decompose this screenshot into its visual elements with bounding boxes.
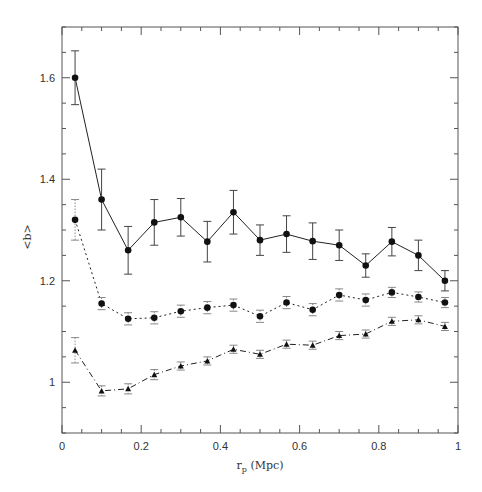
data-point-marker bbox=[415, 294, 422, 301]
data-point-marker bbox=[442, 299, 449, 306]
data-point-marker bbox=[389, 289, 396, 296]
x-tick-label: 0 bbox=[59, 440, 65, 452]
y-tick-label: 1 bbox=[49, 376, 55, 388]
x-tick-label: 0.6 bbox=[292, 440, 307, 452]
data-point-marker bbox=[98, 300, 105, 307]
x-tick-label: 1 bbox=[455, 440, 461, 452]
x-tick-label: 0.4 bbox=[213, 440, 228, 452]
series-upper bbox=[71, 51, 449, 291]
data-point-marker bbox=[442, 277, 449, 284]
chart-canvas: 00.20.40.60.8111.21.41.6 rp (Mpc) <b> bbox=[0, 0, 482, 492]
data-point-marker bbox=[178, 308, 185, 315]
series-lower bbox=[71, 316, 449, 396]
data-point-marker bbox=[363, 331, 369, 337]
data-series bbox=[71, 51, 449, 396]
data-point-marker bbox=[204, 358, 210, 364]
y-tick-label: 1.2 bbox=[40, 275, 55, 287]
data-point-marker bbox=[230, 346, 236, 352]
data-point-marker bbox=[125, 316, 132, 323]
x-tick-label: 0.2 bbox=[134, 440, 149, 452]
data-point-marker bbox=[72, 217, 79, 224]
data-point-marker bbox=[125, 247, 132, 254]
data-point-marker bbox=[415, 252, 422, 259]
data-point-marker bbox=[309, 238, 316, 245]
data-point-marker bbox=[336, 292, 343, 299]
data-point-marker bbox=[257, 237, 264, 244]
data-point-marker bbox=[336, 242, 343, 249]
data-point-marker bbox=[283, 231, 290, 238]
x-axis-label: rp (Mpc) bbox=[237, 459, 284, 474]
data-point-marker bbox=[362, 262, 369, 269]
data-point-marker bbox=[283, 299, 290, 306]
y-axis-label: <b> bbox=[21, 224, 34, 249]
data-point-marker bbox=[230, 209, 237, 216]
data-point-marker bbox=[98, 196, 105, 203]
y-tick-label: 1.4 bbox=[40, 173, 55, 185]
data-point-marker bbox=[284, 341, 290, 347]
data-point-marker bbox=[151, 314, 158, 321]
data-point-marker bbox=[362, 297, 369, 304]
data-point-marker bbox=[310, 342, 316, 348]
data-point-marker bbox=[257, 313, 264, 320]
axis-tick-labels: 00.20.40.60.8111.21.41.6 bbox=[40, 72, 461, 452]
data-point-marker bbox=[72, 74, 79, 81]
data-point-marker bbox=[204, 304, 211, 311]
data-point-marker bbox=[204, 238, 211, 245]
x-tick-label: 0.8 bbox=[371, 440, 386, 452]
data-point-marker bbox=[389, 238, 396, 245]
data-point-marker bbox=[125, 386, 131, 392]
data-point-marker bbox=[309, 306, 316, 313]
data-point-marker bbox=[72, 347, 78, 353]
y-tick-label: 1.6 bbox=[40, 72, 55, 84]
data-point-marker bbox=[178, 214, 185, 221]
data-point-marker bbox=[230, 302, 237, 309]
data-point-marker bbox=[99, 388, 105, 394]
data-point-marker bbox=[151, 219, 158, 226]
